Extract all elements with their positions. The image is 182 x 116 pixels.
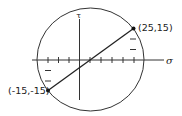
sigma-axis-label: σ	[166, 55, 174, 66]
mohr-circle-diagram: (25,15) (-15,-15) σ τ	[0, 0, 182, 116]
point-label-lower: (-15,-15)	[8, 85, 49, 96]
point-marker-upper	[132, 27, 136, 31]
tau-axis-label: τ	[77, 11, 82, 20]
point-label-upper: (25,15)	[138, 22, 173, 33]
